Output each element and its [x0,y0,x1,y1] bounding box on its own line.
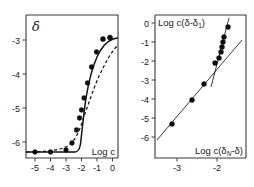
data-point [79,108,84,113]
data-point [226,25,231,30]
left-panel-xtick-2: -3 [62,163,70,173]
left-panel-ytick-0: -3 [12,36,20,46]
left-panel-xtick-4: -1 [93,163,101,173]
log-log-regression-panel: 0 -1 -2 -3 -4 -5 -6 -3 -2 Log c(δ-δ1) Lo… [141,15,246,173]
data-point [107,35,112,40]
data-point [94,50,99,55]
data-point [222,35,227,40]
two-panel-figure: -3 -4 -5 -6 -5 -4 -3 -2 -1 0 δ Log c [0,0,254,187]
right-panel-ytick-3: -3 [141,76,149,86]
right-panel-y-axis-title-main: Log c(δ-δ [158,17,198,28]
right-panel-y-ticks: 0 -1 -2 -3 -4 -5 -6 [141,19,155,143]
left-panel-x-axis-title: Log c [92,146,115,157]
right-panel-frame [155,15,246,158]
left-panel-xtick-0: -5 [31,163,39,173]
left-panel-x-ticks: -5 -4 -3 -2 -1 0 [31,158,115,173]
data-point [221,40,226,45]
right-panel-ytick-5: -5 [141,114,149,124]
left-panel-frame [26,15,118,158]
left-panel-xtick-3: -2 [77,163,85,173]
left-panel-xtick-1: -4 [46,163,54,173]
right-panel-ytick-0: 0 [144,19,149,29]
data-point [85,81,90,86]
right-panel-x-axis-title: Log c(δN-δ) [195,145,243,157]
log-log-data-points [170,25,231,127]
data-point [77,116,82,121]
data-point [213,61,218,66]
right-panel-ytick-6: -6 [141,133,149,143]
right-panel-xtick-1: -2 [213,163,221,173]
right-panel-ytick-1: -1 [141,38,149,48]
data-point [170,122,175,127]
left-panel-y-axis-title: δ [32,19,40,34]
right-panel-x-axis-title-tail: -δ) [231,145,243,156]
data-point [202,82,207,87]
data-point [64,148,69,153]
left-panel-ytick-2: -5 [12,104,20,114]
data-point [70,141,75,146]
left-panel-ytick-3: -6 [12,138,20,148]
sharp-transition-curve [26,38,118,152]
fitted-binding-isotherm-curve [26,45,118,152]
data-point [217,56,222,61]
right-panel-x-ticks: -3 -2 [173,158,221,173]
data-point [82,96,87,101]
right-panel-x-axis-title-main: Log c(δ [195,145,227,156]
right-panel-xtick-0: -3 [173,163,181,173]
data-point [33,150,38,155]
left-panel-y-ticks: -3 -4 -5 -6 [12,36,26,148]
data-point [190,98,195,103]
data-point [100,36,105,41]
right-panel-ytick-4: -4 [141,95,149,105]
right-panel-ytick-2: -2 [141,57,149,67]
data-point [48,150,53,155]
data-point [220,45,225,50]
left-panel-xtick-5: 0 [110,163,115,173]
measured-data-points [33,35,113,155]
data-point [74,128,79,133]
data-point [89,65,94,70]
right-panel-y-axis-title-tail: ) [202,17,205,28]
titration-sigmoid-panel: -3 -4 -5 -6 -5 -4 -3 -2 -1 0 δ Log c [12,15,118,173]
right-panel-y-axis-title: Log c(δ-δ1) [158,17,205,29]
data-point [219,50,224,55]
left-panel-ytick-1: -4 [12,70,20,80]
